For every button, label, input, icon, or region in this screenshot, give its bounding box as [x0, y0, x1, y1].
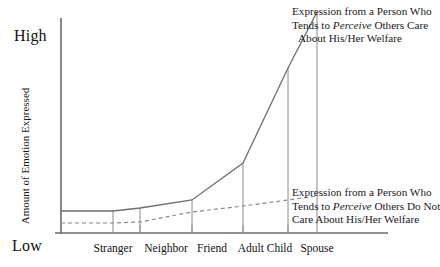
- annotation-lower-series: Expression from a Person Who Tends to Pe…: [292, 186, 440, 227]
- y-axis-high-label: High: [14, 27, 47, 45]
- annotation-lower-line2-post: Others Do Not: [372, 200, 440, 212]
- annotation-upper-line3: About His/Her Welfare: [292, 32, 432, 46]
- annotation-upper-line2-emphasis: Perceive: [333, 19, 372, 31]
- annotation-lower-line2-pre: Tends to: [292, 200, 333, 212]
- x-tick-label-spouse: Spouse: [300, 242, 333, 254]
- x-tick-label-friend: Friend: [197, 242, 227, 254]
- annotation-upper-series: Expression from a Person Who Tends to Pe…: [292, 5, 432, 46]
- annotation-upper-line2: Tends to Perceive Others Care: [292, 19, 432, 33]
- annotation-lower-line1: Expression from a Person Who: [292, 186, 440, 200]
- x-tick-label-stranger: Stranger: [94, 242, 133, 254]
- annotation-upper-line1: Expression from a Person Who: [292, 5, 432, 19]
- annotation-lower-line3: Care About His/Her Welfare: [292, 213, 440, 227]
- annotation-lower-line2: Tends to Perceive Others Do Not: [292, 200, 440, 214]
- chart-figure: High Low Amount of Emotion Expressed Str…: [0, 0, 440, 267]
- annotation-upper-line2-pre: Tends to: [292, 19, 333, 31]
- series-line-perceive-care: [61, 12, 317, 211]
- annotation-upper-line2-post: Others Care: [372, 19, 429, 31]
- annotation-lower-line2-emphasis: Perceive: [333, 200, 372, 212]
- x-tick-label-adult-child: Adult Child: [238, 242, 293, 254]
- x-tick-label-neighbor: Neighbor: [144, 242, 187, 254]
- y-axis-title: Amount of Emotion Expressed: [19, 71, 31, 241]
